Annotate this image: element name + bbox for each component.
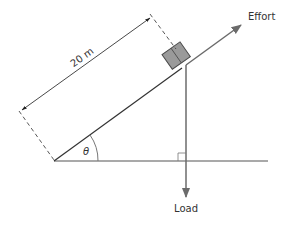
dimension-extension-top bbox=[150, 14, 176, 49]
length-label: 20 m bbox=[68, 45, 95, 69]
right-angle-marker bbox=[178, 153, 186, 161]
diagram-canvas: θ Effort Load 20 m bbox=[0, 0, 288, 226]
load-label: Load bbox=[174, 203, 198, 214]
angle-label: θ bbox=[83, 146, 89, 157]
effort-arrow bbox=[186, 25, 241, 65]
inclined-plane-diagram: θ Effort Load 20 m bbox=[0, 0, 288, 226]
dimension-line bbox=[22, 18, 150, 110]
angle-arc bbox=[90, 135, 98, 161]
dimension-extension-bottom bbox=[19, 111, 54, 160]
incline-surface bbox=[54, 68, 182, 161]
effort-label: Effort bbox=[248, 11, 275, 22]
